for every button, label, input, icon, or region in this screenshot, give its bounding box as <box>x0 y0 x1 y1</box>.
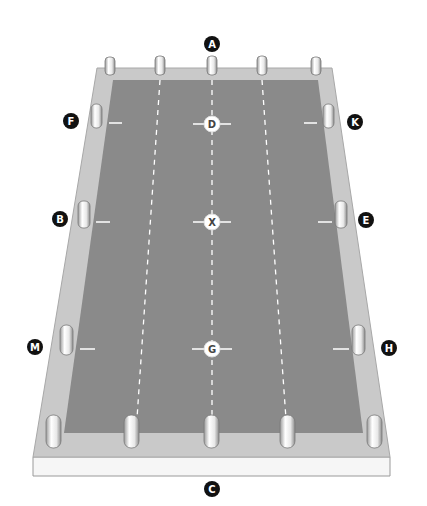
post <box>323 104 334 128</box>
post <box>352 325 365 355</box>
svg-text:E: E <box>363 215 370 226</box>
svg-text:K: K <box>351 117 360 128</box>
post <box>46 415 61 448</box>
post <box>204 415 219 448</box>
svg-text:C: C <box>208 484 215 495</box>
svg-text:F: F <box>68 116 75 127</box>
svg-text:A: A <box>208 39 216 50</box>
post <box>60 325 73 355</box>
slab-front-face <box>33 457 390 476</box>
outer-label-h: H <box>381 340 397 356</box>
post <box>367 415 382 448</box>
svg-text:M: M <box>30 342 40 353</box>
post <box>91 104 102 128</box>
post <box>155 56 165 75</box>
svg-text:H: H <box>385 343 393 354</box>
arena-diagram: A F K B E M H C D X G <box>0 0 427 506</box>
svg-text:D: D <box>208 119 216 130</box>
svg-text:B: B <box>56 214 64 225</box>
outer-label-b: B <box>52 211 68 227</box>
post <box>335 201 347 228</box>
post <box>124 415 139 448</box>
outer-label-m: M <box>27 339 43 355</box>
post <box>311 57 321 75</box>
post <box>78 201 90 228</box>
svg-text:X: X <box>208 217 216 228</box>
outer-label-c: C <box>204 481 220 497</box>
post <box>105 57 115 75</box>
center-marker-g: G <box>204 341 220 357</box>
outer-label-e: E <box>358 212 374 228</box>
outer-label-f: F <box>63 113 79 129</box>
center-marker-d: D <box>204 116 220 132</box>
svg-text:G: G <box>208 344 216 355</box>
post <box>207 56 217 75</box>
court-surface <box>64 80 363 433</box>
outer-label-k: K <box>347 114 363 130</box>
outer-label-a: A <box>204 36 220 52</box>
center-marker-x: X <box>204 214 220 230</box>
post <box>257 56 267 75</box>
post <box>280 415 295 448</box>
